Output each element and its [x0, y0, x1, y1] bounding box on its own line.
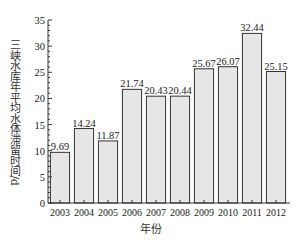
bar-chart: 9.69200314.24200411.87200521.74200620.43… [0, 0, 301, 242]
x-tick-label: 2012 [266, 207, 286, 218]
x-tick-label: 2009 [194, 207, 214, 218]
value-label: 25.15 [264, 61, 288, 72]
y-tick-label: 5 [40, 172, 45, 183]
bar-2007 [146, 96, 165, 203]
bar-2010 [218, 67, 237, 203]
value-label: 20.44 [168, 85, 192, 96]
bar-2004 [74, 129, 93, 203]
y-tick-label: 20 [35, 93, 46, 104]
value-label: 26.07 [216, 56, 240, 67]
bar-2006 [122, 89, 141, 203]
y-tick-label: 30 [35, 41, 46, 52]
x-tick-label: 2004 [74, 207, 94, 218]
x-tick-label: 2010 [218, 207, 238, 218]
bar-2005 [98, 141, 117, 203]
value-label: 14.24 [72, 118, 96, 129]
value-label: 11.87 [96, 130, 119, 141]
y-tick-label: 35 [35, 15, 46, 26]
x-axis-label: 年份 [0, 220, 301, 236]
bar-2012 [266, 72, 285, 203]
bar-2003 [50, 152, 69, 203]
x-tick-label: 2005 [98, 207, 118, 218]
value-label: 32.44 [240, 22, 264, 33]
y-tick-label: 10 [35, 146, 46, 157]
y-tick-label: 0 [40, 198, 45, 209]
y-tick-label: 15 [35, 120, 46, 131]
y-axis-label: 三峡水库年平均水体滞留时间/d [2, 20, 22, 205]
x-tick-label: 2007 [146, 207, 166, 218]
value-label: 20.43 [144, 85, 168, 96]
value-label: 9.69 [51, 141, 69, 152]
value-label: 21.74 [120, 78, 144, 89]
value-label: 25.67 [192, 58, 216, 69]
x-tick-label: 2006 [122, 207, 142, 218]
y-tick-label: 25 [35, 67, 46, 78]
bar-2009 [194, 69, 213, 203]
x-tick-label: 2003 [50, 207, 70, 218]
x-tick-label: 2008 [170, 207, 190, 218]
bar-2008 [170, 96, 189, 203]
bar-2011 [242, 33, 261, 203]
x-tick-label: 2011 [242, 207, 262, 218]
